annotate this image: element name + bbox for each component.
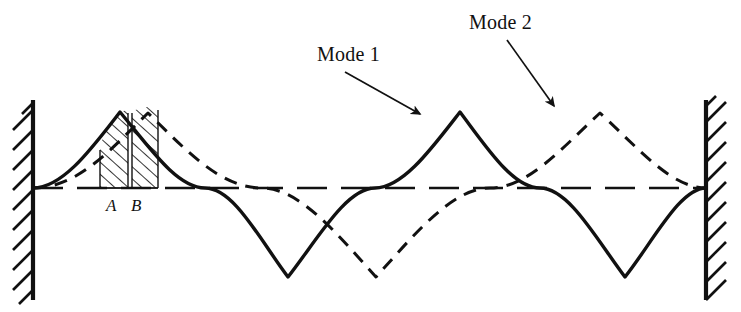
point-a-label: A bbox=[106, 197, 116, 214]
mode-2-arrow bbox=[507, 40, 554, 106]
mode-2-label: Mode 2 bbox=[469, 12, 532, 32]
right-wall-hatching bbox=[706, 96, 726, 300]
right-wall-support bbox=[706, 96, 726, 300]
left-wall-hatching bbox=[13, 103, 33, 304]
hatched-strip-b bbox=[132, 107, 158, 188]
mode-1-arrow bbox=[345, 72, 420, 114]
point-b-label: B bbox=[131, 197, 141, 214]
left-wall-support bbox=[13, 100, 33, 304]
mode-1-label: Mode 1 bbox=[317, 44, 380, 64]
vibration-mode-figure: Mode 1 Mode 2 A B bbox=[0, 0, 741, 312]
